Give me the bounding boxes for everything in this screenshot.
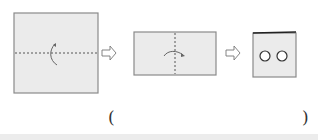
answer-open-paren: ( bbox=[108, 109, 115, 126]
hollow-right-arrow-icon bbox=[226, 46, 240, 60]
origami-diagram bbox=[0, 0, 318, 140]
answer-close-paren: ) bbox=[302, 109, 309, 126]
bottom-band bbox=[0, 134, 318, 140]
card-top-fold-edge bbox=[253, 32, 296, 33]
step-2-rectangle bbox=[134, 32, 216, 75]
hole-right bbox=[277, 51, 287, 61]
step-1-square bbox=[14, 13, 98, 93]
step-3-card bbox=[253, 32, 296, 77]
hollow-right-arrow-icon bbox=[102, 46, 116, 60]
hole-left bbox=[260, 51, 270, 61]
paper-card bbox=[253, 33, 296, 77]
